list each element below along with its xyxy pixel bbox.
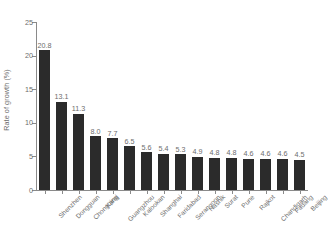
bar: 6.5 — [124, 146, 135, 190]
x-axis-tick-mark — [79, 190, 80, 194]
bar: 5.4 — [158, 154, 169, 190]
x-axis-tick-mark — [96, 190, 97, 194]
y-axis-tick-label: 5 — [29, 152, 33, 161]
bar-value-label: 8.0 — [90, 128, 100, 135]
bar: 7.7 — [107, 138, 118, 190]
bar: 4.8 — [209, 158, 220, 190]
y-axis-tick-label: 10 — [25, 118, 33, 127]
bar-value-label: 11.3 — [72, 105, 85, 112]
bar: 5.6 — [141, 152, 152, 190]
x-axis-tick-mark — [113, 190, 114, 194]
bar-value-label: 5.6 — [141, 144, 151, 151]
y-axis-tick-label: 25 — [25, 18, 33, 27]
bar: 4.6 — [260, 159, 271, 190]
bar-value-label: 4.8 — [209, 149, 219, 156]
bar-value-label: 4.6 — [243, 150, 253, 157]
y-axis-tick-label: 15 — [25, 85, 33, 94]
y-axis-tick: 10 — [36, 123, 37, 124]
x-axis-category-label: Rajkot — [258, 194, 276, 212]
bar: 4.6 — [243, 159, 254, 190]
bar: 4.8 — [226, 158, 237, 190]
x-axis-line — [36, 190, 308, 191]
bar: 4.9 — [192, 157, 203, 190]
x-axis-tick-mark — [266, 190, 267, 194]
bar-value-label: 4.8 — [226, 149, 236, 156]
bar: 11.3 — [73, 114, 84, 190]
bar-value-label: 13.1 — [54, 93, 68, 100]
x-axis-category-label: Karaj — [104, 194, 120, 210]
x-axis-tick-mark — [249, 190, 250, 194]
bar-value-label: 7.7 — [107, 130, 117, 137]
bar-value-label: 6.5 — [124, 138, 134, 145]
x-axis-tick-mark — [300, 190, 301, 194]
x-axis-tick-mark — [45, 190, 46, 194]
y-axis-tick: 20 — [36, 56, 37, 57]
x-axis-tick-mark — [283, 190, 284, 194]
x-axis-tick-mark — [147, 190, 148, 194]
bar: 20.8 — [39, 50, 50, 190]
bar: 5.3 — [175, 154, 186, 190]
bar-value-label: 20.8 — [37, 42, 51, 49]
y-axis-title: Rate of growth (%) — [2, 52, 11, 148]
y-axis-tick-label: 0 — [29, 186, 33, 195]
y-axis-tick: 0 — [36, 190, 37, 191]
bar: 4.5 — [294, 160, 305, 190]
x-axis-tick-mark — [130, 190, 131, 194]
bar: 8.0 — [90, 136, 101, 190]
bar-value-label: 5.3 — [175, 146, 185, 153]
x-axis-tick-mark — [62, 190, 63, 194]
y-axis-tick-label: 20 — [25, 51, 33, 60]
x-axis-tick-mark — [164, 190, 165, 194]
bar-value-label: 5.4 — [158, 145, 168, 152]
y-axis-tick: 5 — [36, 156, 37, 157]
x-axis-tick-mark — [198, 190, 199, 194]
bar: 13.1 — [56, 102, 67, 190]
bar-value-label: 4.6 — [277, 150, 287, 157]
bar-value-label: 4.5 — [294, 151, 304, 158]
bar-value-label: 4.6 — [260, 150, 270, 157]
y-axis-tick: 25 — [36, 22, 37, 23]
x-axis-tick-mark — [232, 190, 233, 194]
bar-value-label: 4.9 — [192, 148, 202, 155]
x-axis-tick-mark — [181, 190, 182, 194]
x-axis-category-label: Pune — [240, 194, 256, 210]
bar: 4.6 — [277, 159, 288, 190]
plot-area: 051015202520.813.111.38.07.76.55.65.45.3… — [36, 22, 308, 190]
y-axis-tick: 15 — [36, 89, 37, 90]
x-axis-tick-mark — [215, 190, 216, 194]
